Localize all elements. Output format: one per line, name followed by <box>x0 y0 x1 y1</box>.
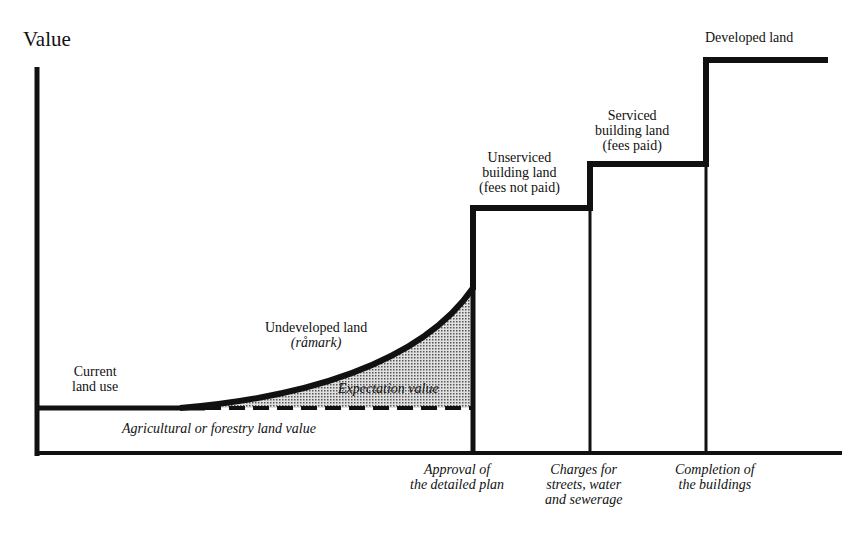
label-line: (fees paid) <box>595 138 669 153</box>
label-unserviced-building-land: Unserviced building land (fees not paid) <box>479 150 560 195</box>
label-agricultural-value: Agricultural or forestry land value <box>122 421 316 436</box>
label-developed-land: Developed land <box>705 30 793 45</box>
label-line: Approval of <box>410 462 504 477</box>
label-line: (fees not paid) <box>479 180 560 195</box>
label-line: Serviced <box>595 108 669 123</box>
label-line: Undeveloped land <box>265 320 367 335</box>
label-line: Completion of <box>675 462 755 477</box>
label-line: the detailed plan <box>410 477 504 492</box>
label-line: the buildings <box>675 477 755 492</box>
label-line: land use <box>72 379 118 394</box>
value-diagram <box>0 0 862 534</box>
label-sub: (råmark) <box>265 335 367 350</box>
event-charges: Charges for streets, water and sewerage <box>545 462 622 507</box>
event-completion: Completion of the buildings <box>675 462 755 492</box>
label-line: and sewerage <box>545 492 622 507</box>
label-line: Charges for <box>545 462 622 477</box>
label-line: Unserviced <box>479 150 560 165</box>
label-serviced-building-land: Serviced building land (fees paid) <box>595 108 669 153</box>
label-line: streets, water <box>545 477 622 492</box>
label-line: building land <box>479 165 560 180</box>
event-approval: Approval of the detailed plan <box>410 462 504 492</box>
label-expectation-value: Expectation value <box>338 381 439 396</box>
label-line: Current <box>72 364 118 379</box>
label-undeveloped-land: Undeveloped land (råmark) <box>265 320 367 350</box>
label-current-land-use: Current land use <box>72 364 118 394</box>
label-line: building land <box>595 123 669 138</box>
